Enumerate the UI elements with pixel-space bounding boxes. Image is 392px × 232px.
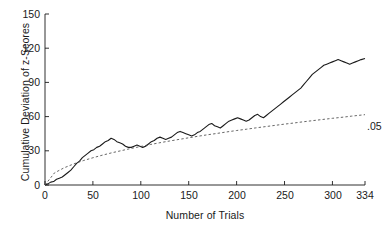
- plot-canvas: [0, 0, 392, 232]
- chart-figure: Cumulative Deviation of z-Scores 150 120…: [0, 0, 392, 232]
- y-tick-marks: [45, 14, 49, 185]
- axis-lines: [45, 14, 365, 185]
- x-tick-marks: [45, 181, 365, 185]
- cumulative-deviation-line: [45, 58, 365, 185]
